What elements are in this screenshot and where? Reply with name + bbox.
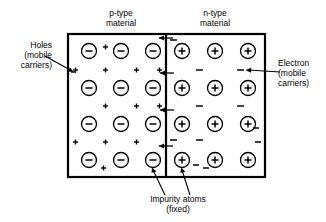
electron-callout-label: Electron (mobile carriers) [278,58,326,88]
p-type-label: p-type material [84,8,158,28]
pn-junction-figure: p-type material n-type material Holes (m… [0,0,326,222]
impurity-callout-label: Impurity atoms (fixed) [118,194,238,214]
n-type-label: n-type material [178,8,252,28]
holes-callout-label: Holes (mobile carriers) [0,40,52,70]
diagram-canvas [0,0,326,222]
